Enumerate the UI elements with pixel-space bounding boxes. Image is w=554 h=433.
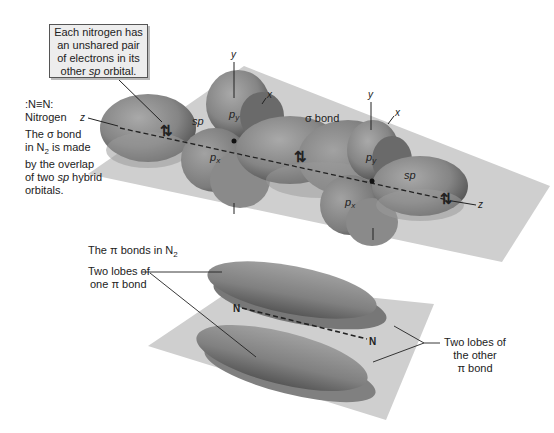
callout-line: of electrons in its: [50, 52, 147, 65]
pi-right-n-label: N: [369, 336, 376, 347]
label-other-pi-bond: Two lobes of the other π bond: [440, 336, 510, 375]
right-electron-pair-icon: ⇅: [440, 190, 453, 207]
callout-unshared-pair: Each nitrogen has an unshared pair of el…: [49, 24, 148, 78]
right-sp-label: sp: [404, 169, 416, 181]
right-nucleus: [370, 179, 375, 184]
label-one-pi-bond: Two lobes of one π bond: [88, 265, 150, 291]
nitrogen-label: Nitrogen: [25, 111, 67, 124]
right-x-label: x: [394, 107, 401, 118]
n2-lewis-structure: :N≡N:: [25, 98, 53, 111]
left-x-label: x: [266, 89, 273, 100]
right-y-label: y: [367, 89, 374, 100]
left-y-label: y: [230, 49, 237, 60]
right-z-label: z: [477, 199, 483, 210]
left-z-label: z: [79, 112, 85, 123]
pi-left-n-label: N: [233, 303, 240, 314]
pi-bonds-title: The π bonds in N2: [88, 244, 178, 261]
left-nucleus: [232, 139, 237, 144]
left-electron-pair-icon: ⇅: [160, 122, 173, 139]
sigma-bond-label: σ bond: [305, 112, 339, 124]
callout-line: an unshared pair: [50, 39, 147, 52]
callout-line: other sp orbital.: [50, 65, 147, 78]
sigma-bond-explanation: The σ bond in N2 is made by the overlap …: [25, 128, 102, 197]
left-sp-label: sp: [192, 115, 204, 127]
sigma-electron-pair-icon: ⇅: [294, 148, 307, 165]
callout-line: Each nitrogen has: [50, 26, 147, 39]
